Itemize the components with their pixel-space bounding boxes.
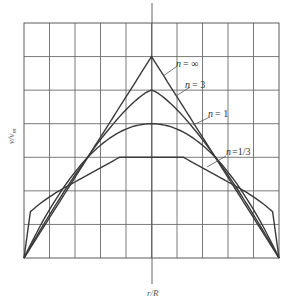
grid [24, 23, 279, 258]
label-n-3: n= 3 [185, 79, 205, 90]
velocity-profile-chart: n= ∞ n= 3 n= 1 n=1/3 r/R v/vm [0, 0, 287, 305]
label-n-1: n= 1 [208, 108, 228, 119]
x-axis-label: r/R [147, 288, 159, 298]
leader-n-inf [163, 67, 176, 76]
label-n-13: n=1/3 [226, 146, 250, 157]
y-axis-label: v/vm [6, 128, 18, 144]
label-n-inf: n= ∞ [176, 58, 198, 69]
